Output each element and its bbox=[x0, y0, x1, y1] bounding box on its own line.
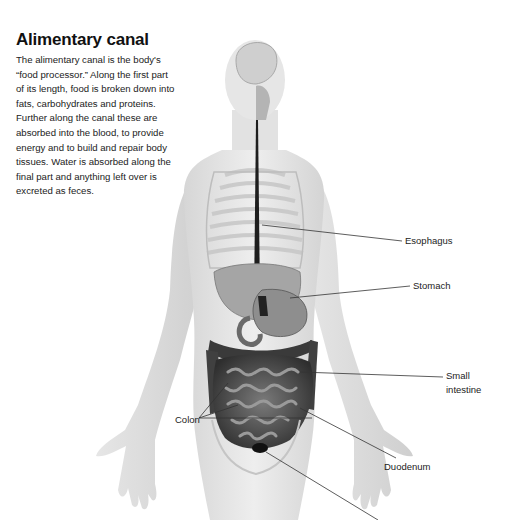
intro-text-block: Alimentary canal The alimentary canal is… bbox=[16, 30, 176, 199]
label-colon: Colon bbox=[175, 413, 200, 426]
label-small-intestine-line1: Small bbox=[446, 369, 470, 382]
article-body: The alimentary canal is the body's “food… bbox=[16, 53, 176, 199]
label-duodenum: Duodenum bbox=[384, 460, 430, 473]
label-stomach: Stomach bbox=[413, 279, 451, 292]
small-intestine-leader bbox=[300, 372, 443, 377]
rectum-organ bbox=[252, 443, 268, 453]
torso bbox=[184, 150, 324, 520]
article-title: Alimentary canal bbox=[16, 30, 176, 50]
label-small-intestine-line2: intestine bbox=[446, 383, 481, 396]
label-esophagus: Esophagus bbox=[405, 234, 453, 247]
